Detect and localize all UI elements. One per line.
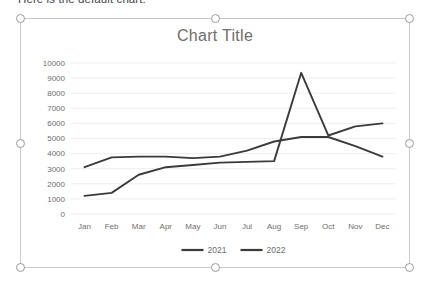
series-line-2022[interactable] — [85, 73, 383, 196]
chart-legend[interactable]: 20212022 — [182, 245, 286, 255]
x-axis-tick-labels: JanFebMarAprMayJunJulAugSepOctNovDec — [78, 222, 389, 231]
x-axis-tick-label: Apr — [160, 222, 173, 231]
y-axis-tick-label: 8000 — [47, 89, 65, 98]
x-axis-tick-label: Dec — [375, 222, 389, 231]
document-body-text: Here is the default chart. — [18, 0, 146, 5]
x-axis-tick-label: Aug — [267, 222, 281, 231]
resize-handle-top-left[interactable] — [16, 14, 25, 23]
resize-handle-bottom-right[interactable] — [405, 263, 414, 272]
chart-object[interactable]: Chart Title 1000090008000700060005000400… — [20, 18, 410, 268]
y-axis-tick-label: 5000 — [47, 134, 65, 143]
y-axis-tick-label: 0 — [61, 210, 66, 219]
y-axis-tick-label: 3000 — [47, 165, 65, 174]
chart-plot-area[interactable]: 1000090008000700060005000400030002000100… — [21, 19, 411, 269]
legend-label-2021[interactable]: 2021 — [208, 245, 227, 255]
y-axis-tick-label: 1000 — [47, 195, 65, 204]
y-axis-tick-labels: 1000090008000700060005000400030002000100… — [43, 59, 66, 219]
x-axis-tick-label: Jun — [214, 222, 227, 231]
y-axis-tick-label: 6000 — [47, 119, 65, 128]
x-axis-tick-label: Sep — [294, 222, 309, 231]
resize-handle-middle-left[interactable] — [16, 139, 25, 148]
y-axis-tick-label: 2000 — [47, 180, 65, 189]
y-axis-tick-label: 10000 — [43, 59, 66, 68]
series-lines[interactable] — [85, 73, 383, 196]
y-axis-tick-label: 4000 — [47, 149, 65, 158]
resize-handle-top-right[interactable] — [405, 14, 414, 23]
x-axis-tick-label: May — [185, 222, 200, 231]
y-axis-tick-label: 9000 — [47, 74, 65, 83]
x-axis-tick-label: Oct — [322, 222, 335, 231]
x-axis-tick-label: Jul — [242, 222, 252, 231]
x-axis-tick-label: Mar — [132, 222, 146, 231]
resize-handle-bottom-center[interactable] — [211, 263, 220, 272]
resize-handle-top-center[interactable] — [211, 14, 220, 23]
y-axis-tick-label: 7000 — [47, 104, 65, 113]
resize-handle-bottom-left[interactable] — [16, 263, 25, 272]
gridlines — [71, 63, 396, 214]
x-axis-tick-label: Feb — [105, 222, 119, 231]
legend-label-2022[interactable]: 2022 — [267, 245, 286, 255]
x-axis-tick-label: Nov — [348, 222, 362, 231]
x-axis-tick-label: Jan — [78, 222, 91, 231]
resize-handle-middle-right[interactable] — [405, 139, 414, 148]
